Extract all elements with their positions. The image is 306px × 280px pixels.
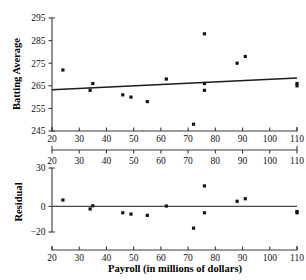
- data-point: [121, 211, 124, 214]
- y-tick-label: 285: [31, 36, 46, 46]
- x-tick-label: 30: [74, 253, 84, 263]
- data-point: [121, 93, 124, 96]
- scatter-panel-batting-average: Batting Average 245255265275285295 20304…: [0, 0, 306, 142]
- figure-batting-average-vs-payroll: Batting Average 245255265275285295 20304…: [0, 0, 306, 280]
- y-tick-label: 295: [31, 13, 46, 23]
- y-axis-tick-labels-bottom: −20030: [31, 163, 46, 237]
- data-point: [129, 212, 132, 215]
- residual-plot: Residual −20030 2030405060708090100110 2…: [0, 142, 306, 280]
- data-point: [203, 89, 206, 92]
- x-tick-label: 40: [102, 156, 112, 166]
- data-point: [129, 96, 132, 99]
- data-point: [89, 89, 92, 92]
- data-point: [91, 82, 94, 85]
- y-tick-label: 0: [41, 202, 46, 212]
- x-axis-tick-labels-lower: 2030405060708090100110: [47, 253, 304, 263]
- x-tick-label: 40: [102, 253, 112, 263]
- data-point: [203, 82, 206, 85]
- y-tick-label: 245: [31, 126, 46, 136]
- x-tick-label: 60: [156, 253, 166, 263]
- x-tick-label: 30: [74, 156, 84, 166]
- x-tick-label: 60: [156, 134, 166, 143]
- scatter-plot-batting-average: Batting Average 245255265275285295 20304…: [0, 0, 306, 142]
- y-tick-label: 275: [31, 59, 46, 69]
- data-point: [236, 200, 239, 203]
- data-point: [244, 55, 247, 58]
- x-tick-label: 90: [238, 156, 248, 166]
- x-tick-label: 20: [47, 253, 57, 263]
- x-axis-tick-labels-top: 2030405060708090100110: [47, 134, 304, 143]
- x-tick-label: 80: [211, 253, 221, 263]
- x-tick-label: 80: [211, 156, 221, 166]
- x-tick-label: 100: [263, 156, 278, 166]
- x-axis-tick-labels-upper: 2030405060708090100110: [47, 156, 304, 166]
- data-point: [192, 227, 195, 230]
- x-tick-label: 100: [263, 253, 278, 263]
- x-tick-label: 40: [102, 134, 112, 143]
- data-point: [203, 184, 206, 187]
- data-point: [236, 62, 239, 65]
- x-tick-label: 50: [129, 134, 139, 143]
- x-axis-title-payroll: Payroll (in millions of dollars): [108, 263, 242, 275]
- x-tick-label: 110: [290, 253, 304, 263]
- y-axis-line-top: [52, 18, 55, 131]
- residual-panel: Residual −20030 2030405060708090100110 2…: [0, 142, 306, 280]
- x-tick-label: 90: [238, 134, 248, 143]
- data-point: [203, 32, 206, 35]
- y-axis-tick-labels-top: 245255265275285295: [31, 13, 46, 136]
- x-tick-label: 20: [47, 134, 57, 143]
- data-point: [61, 198, 64, 201]
- x-axis-line-top: [52, 127, 297, 131]
- x-tick-label: 50: [129, 156, 139, 166]
- data-point: [146, 214, 149, 217]
- data-point: [244, 197, 247, 200]
- x-tick-label: 70: [183, 156, 193, 166]
- y-axis-title-residual: Residual: [13, 182, 24, 221]
- data-point: [203, 211, 206, 214]
- y-axis-title-batting-average: Batting Average: [11, 38, 22, 110]
- x-tick-label: 20: [47, 156, 57, 166]
- data-point: [91, 204, 94, 207]
- x-tick-label: 80: [211, 134, 221, 143]
- data-point: [89, 207, 92, 210]
- x-tick-label: 30: [74, 134, 84, 143]
- y-tick-label: 30: [36, 163, 46, 173]
- y-tick-label: 265: [31, 81, 46, 91]
- data-point: [61, 68, 64, 71]
- x-tick-label: 70: [183, 134, 193, 143]
- data-point: [192, 123, 195, 126]
- y-tick-label: −20: [31, 227, 46, 237]
- x-tick-label: 100: [263, 134, 278, 143]
- data-point: [165, 77, 168, 80]
- data-point: [165, 204, 168, 207]
- x-axis-line-upper: [52, 146, 297, 150]
- data-point: [295, 84, 298, 87]
- data-point: [295, 211, 298, 214]
- regression-line: [52, 78, 297, 90]
- y-axis-line-bottom: [52, 168, 55, 232]
- y-tick-label: 255: [31, 104, 46, 114]
- x-tick-label: 70: [183, 253, 193, 263]
- data-points-residual: [61, 184, 298, 229]
- x-tick-label: 90: [238, 253, 248, 263]
- data-point: [146, 100, 149, 103]
- x-tick-label: 110: [290, 156, 304, 166]
- x-tick-label: 110: [290, 134, 304, 143]
- x-axis-line-lower: [52, 246, 297, 250]
- x-tick-label: 50: [129, 253, 139, 263]
- x-tick-label: 60: [156, 156, 166, 166]
